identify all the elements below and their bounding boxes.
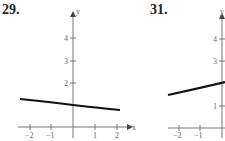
x-axis-label: x [132,123,136,132]
y-tick-label: 4 [213,35,217,44]
graph-31: y −2 −1 4 3 1 [168,7,225,140]
x-tick-label: −1 [46,131,55,140]
x-tick-label: −1 [194,131,203,140]
y-tick-label: 1 [213,102,217,111]
y-tick-label: 4 [64,34,68,43]
y-axis-label: y [76,7,80,16]
y-tick-label: 2 [64,79,68,88]
curve-29 [20,99,120,110]
charts-canvas: x y −2 −1 1 2 4 3 2 y −2 −1 4 3 1 [0,0,225,141]
y-tick-label: 3 [64,57,68,66]
y-tick-label: 3 [213,57,217,66]
x-tick-label: −2 [173,131,182,140]
x-tick-label: −2 [25,131,34,140]
curve-31 [168,82,225,95]
y-axis-label: y [220,7,224,16]
graph-29: x y −2 −1 1 2 4 3 2 [18,7,136,140]
x-tick-label: 1 [93,131,97,140]
x-tick-label: 2 [115,131,119,140]
